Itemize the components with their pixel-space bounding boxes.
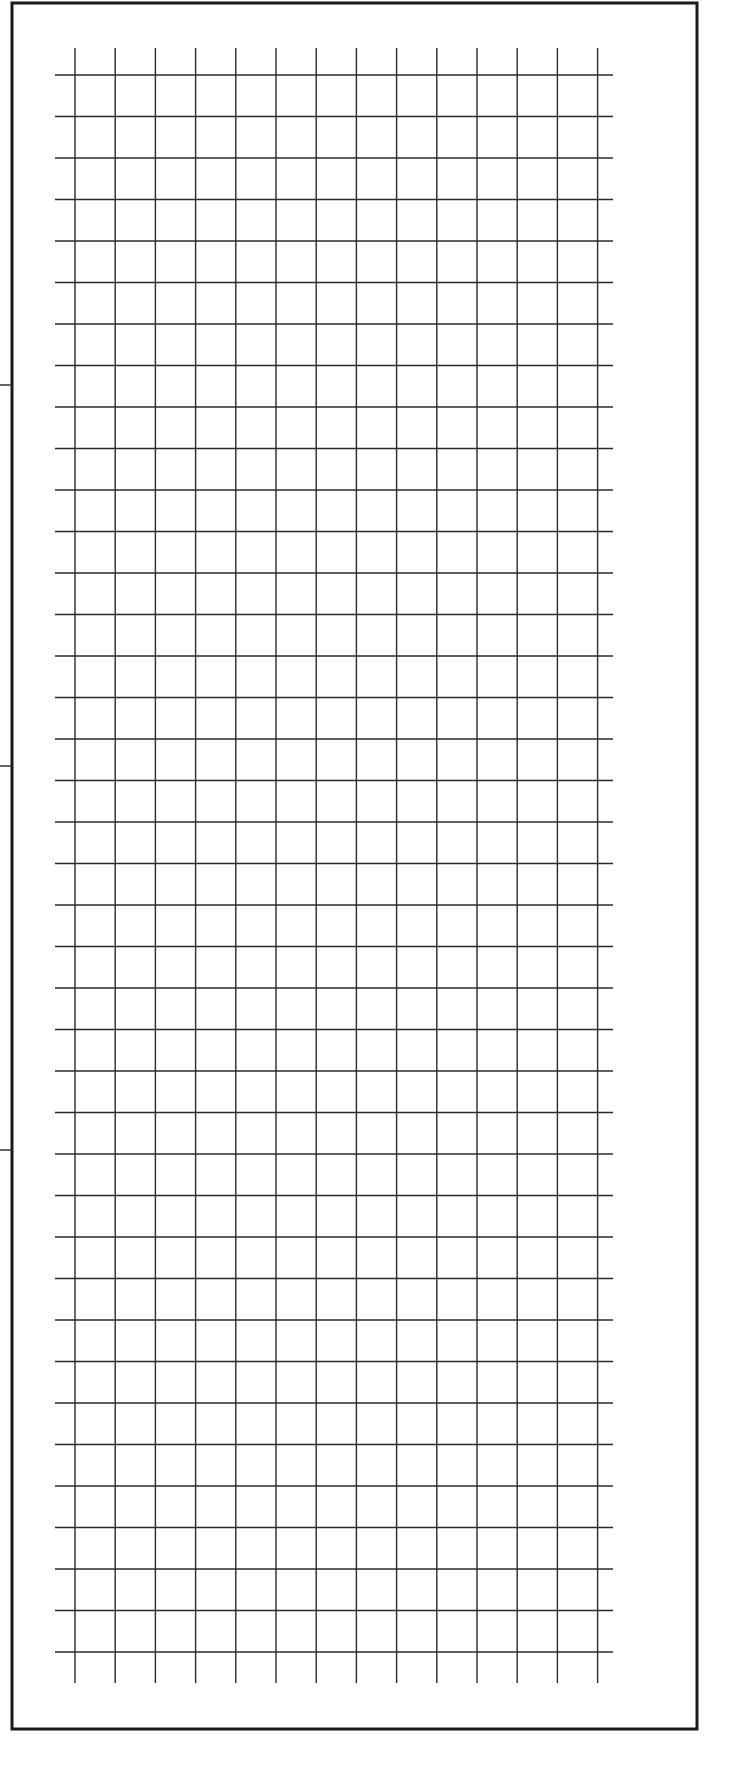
horizontal-grid-lines <box>55 75 613 1652</box>
left-edge-ticks <box>0 385 12 1150</box>
graph-paper-grid <box>0 0 731 1766</box>
graph-paper-page <box>0 0 731 1766</box>
vertical-grid-lines <box>75 48 598 1683</box>
